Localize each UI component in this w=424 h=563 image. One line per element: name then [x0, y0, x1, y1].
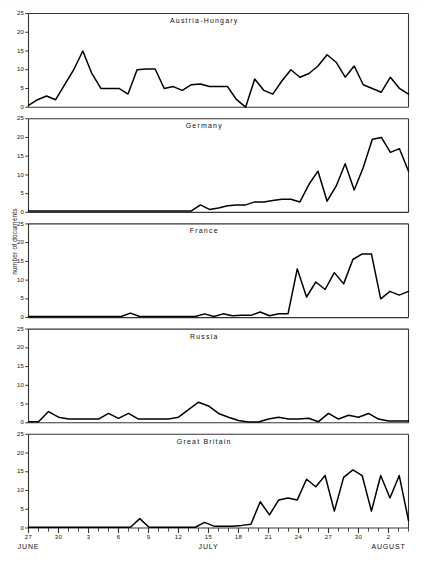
series-line — [29, 470, 409, 527]
x-tick-label: 2 — [379, 534, 399, 540]
top-trim — [0, 0, 424, 9]
y-tick-label: 20 — [4, 239, 24, 245]
y-tick-label: 20 — [4, 450, 24, 456]
y-tick-label: 15 — [4, 48, 24, 54]
series-line — [29, 402, 409, 422]
panel-title-france: France — [0, 227, 409, 234]
x-tick-label: 6 — [109, 534, 129, 540]
y-tick-label: 10 — [4, 66, 24, 72]
y-tick-label: 5 — [4, 401, 24, 407]
x-tick-label: 21 — [259, 534, 279, 540]
y-tick-label: 10 — [4, 277, 24, 283]
y-tick-label: 5 — [4, 85, 24, 91]
y-tick-label: 25 — [4, 115, 24, 121]
series-line — [29, 254, 409, 317]
x-month-label: JUNE — [7, 543, 51, 550]
panel-title-austria-hungary: Austria-Hungary — [0, 17, 409, 24]
panel-title-russia: Russia — [0, 333, 409, 340]
y-tick-label: 20 — [4, 134, 24, 140]
y-tick-label: 0 — [4, 525, 24, 531]
y-tick-label: 10 — [4, 382, 24, 388]
y-tick-label: 15 — [4, 153, 24, 159]
plot-canvas — [0, 0, 424, 563]
x-tick-label: 9 — [139, 534, 159, 540]
series-line — [29, 51, 409, 107]
y-tick-label: 0 — [4, 419, 24, 425]
y-tick-label: 15 — [4, 363, 24, 369]
x-tick-label: 24 — [289, 534, 309, 540]
panel-title-germany: Germany — [0, 122, 409, 129]
series-line — [29, 137, 409, 210]
x-tick-label: 15 — [199, 534, 219, 540]
y-tick-label: 15 — [4, 468, 24, 474]
y-tick-label: 10 — [4, 172, 24, 178]
chart-figure: number of documents 0510152025Austria-Hu… — [0, 0, 424, 563]
y-tick-label: 0 — [4, 104, 24, 110]
x-tick-label: 27 — [19, 534, 39, 540]
x-month-label: AUGUST — [367, 543, 411, 550]
y-tick-label: 0 — [4, 314, 24, 320]
x-month-label: JULY — [187, 543, 231, 550]
y-tick-label: 5 — [4, 190, 24, 196]
y-tick-label: 5 — [4, 295, 24, 301]
y-tick-label: 20 — [4, 344, 24, 350]
x-tick-label: 30 — [349, 534, 369, 540]
panel-title-great-britain: Great Britain — [0, 438, 409, 445]
y-tick-label: 10 — [4, 487, 24, 493]
y-tick-label: 15 — [4, 258, 24, 264]
y-tick-label: 0 — [4, 209, 24, 215]
x-tick-label: 30 — [49, 534, 69, 540]
x-tick-label: 27 — [319, 534, 339, 540]
y-tick-label: 20 — [4, 29, 24, 35]
y-tick-label: 25 — [4, 10, 24, 16]
x-tick-label: 18 — [229, 534, 249, 540]
y-tick-label: 25 — [4, 431, 24, 437]
y-tick-label: 25 — [4, 326, 24, 332]
x-tick-label: 3 — [79, 534, 99, 540]
x-tick-label: 12 — [169, 534, 189, 540]
y-tick-label: 5 — [4, 506, 24, 512]
y-tick-label: 25 — [4, 221, 24, 227]
